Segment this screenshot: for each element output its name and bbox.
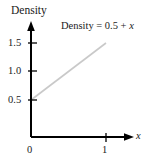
y-axis-arrow-icon (27, 21, 35, 31)
density-line-series (31, 43, 106, 100)
x-tick-label-0: 0 (27, 145, 32, 156)
equation-annotation-variable: x (129, 20, 134, 31)
density-line (31, 43, 106, 100)
equation-annotation-lead: Density = 0.5 + (61, 20, 129, 31)
y-axis-label: Density (11, 5, 47, 17)
y-tick-label-1-0: 1.0 (8, 66, 21, 77)
x-tick-label-1: 1 (102, 145, 107, 156)
density-plot-figure: Density Density = 0.5 + x 1.5 1.0 0.5 0 … (0, 0, 147, 165)
y-axis (27, 21, 35, 137)
x-axis-label: x (136, 131, 141, 142)
x-axis-arrow-icon (124, 133, 134, 141)
x-axis (31, 133, 134, 141)
equation-annotation: Density = 0.5 + x (61, 21, 134, 32)
y-tick-label-0-5: 0.5 (8, 95, 21, 106)
y-axis-ticks (28, 43, 37, 100)
y-tick-label-1-5: 1.5 (8, 38, 21, 49)
